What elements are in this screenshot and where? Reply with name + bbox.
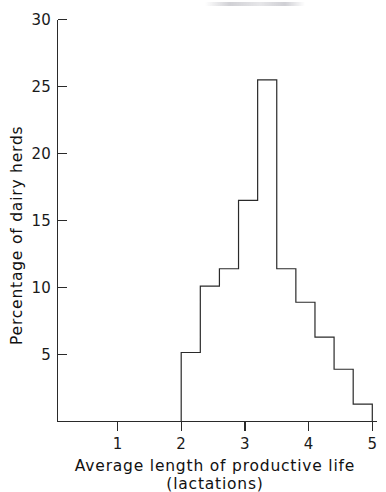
x-axis-tick-labels: 1 2 3 4 5 <box>113 435 378 453</box>
histogram-bar <box>200 286 219 421</box>
y-tick-label: 25 <box>32 78 52 96</box>
x-axis-ticks <box>118 422 373 431</box>
histogram-outline <box>181 80 372 422</box>
x-axis-title-line2: (lactations) <box>166 475 263 492</box>
y-tick-label: 10 <box>32 279 52 297</box>
x-tick-label: 1 <box>113 435 123 453</box>
x-axis-title-line1: Average length of productive life <box>75 457 355 475</box>
histogram-bar <box>181 352 200 421</box>
histogram-bar <box>296 302 315 421</box>
histogram-plot: 30 25 20 15 10 5 1 2 3 4 5 Percentage of… <box>0 0 386 492</box>
y-axis-title: Percentage of dairy herds <box>8 126 26 345</box>
histogram-bar <box>258 80 277 422</box>
y-axis-ticks <box>58 20 67 355</box>
histogram-bar <box>353 404 372 421</box>
x-tick-label: 2 <box>176 435 186 453</box>
y-tick-label: 5 <box>41 346 51 364</box>
x-tick-label: 4 <box>304 435 314 453</box>
x-tick-label: 3 <box>240 435 250 453</box>
histogram-bars <box>181 80 372 422</box>
y-tick-label: 30 <box>32 11 52 29</box>
histogram-bar <box>334 369 353 421</box>
histogram-bar <box>315 337 334 421</box>
x-tick-label: 5 <box>367 435 377 453</box>
histogram-bar <box>219 269 238 422</box>
histogram-bar <box>239 200 258 421</box>
histogram-bar <box>277 269 296 422</box>
y-axis-tick-labels: 30 25 20 15 10 5 <box>32 11 52 364</box>
y-tick-label: 15 <box>32 212 52 230</box>
chart-figure: 30 25 20 15 10 5 1 2 3 4 5 Percentage of… <box>0 0 386 492</box>
y-tick-label: 20 <box>32 145 52 163</box>
